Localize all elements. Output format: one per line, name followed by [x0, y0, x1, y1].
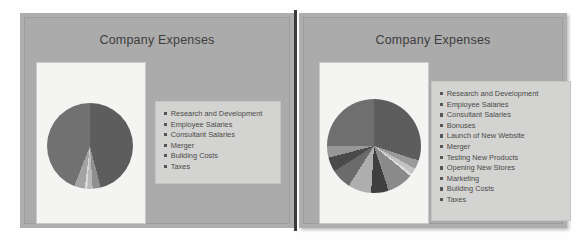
- pie-chart-left: [47, 103, 133, 189]
- slide-panel-right[interactable]: Company Expenses Research and Developmen…: [299, 13, 567, 228]
- slide-inner-frame-right: Company Expenses Research and Developmen…: [303, 17, 563, 224]
- slide-inner-frame-left: Company Expenses Research and Developmen…: [24, 17, 290, 224]
- legend-item[interactable]: Launch of New Website: [440, 132, 564, 139]
- square-marker-icon: [164, 123, 167, 126]
- legend-item-label: Building Costs: [447, 185, 494, 192]
- square-marker-icon: [164, 112, 167, 115]
- legend-item[interactable]: Opening New Stores: [440, 164, 564, 171]
- legend-item[interactable]: Taxes: [440, 196, 564, 203]
- legend-item[interactable]: Research and Development: [164, 110, 274, 117]
- legend-item[interactable]: Marketing: [440, 175, 564, 182]
- legend-item[interactable]: Research and Development: [440, 90, 564, 97]
- legend-item-label: Employee Salaries: [447, 101, 509, 108]
- square-marker-icon: [440, 124, 443, 127]
- legend-item[interactable]: Consultant Salaries: [440, 111, 564, 118]
- screenshot-stage: Company Expenses Research and Developmen…: [0, 0, 586, 247]
- square-marker-icon: [440, 103, 443, 106]
- legend-item[interactable]: Consultant Salaries: [164, 131, 274, 138]
- legend-item-label: Opening New Stores: [447, 164, 515, 171]
- legend-item[interactable]: Bonuses: [440, 122, 564, 129]
- square-marker-icon: [440, 134, 443, 137]
- square-marker-icon: [440, 92, 443, 95]
- legend-item-label: Launch of New Website: [447, 132, 525, 139]
- square-marker-icon: [164, 133, 167, 136]
- slide-panel-left[interactable]: Company Expenses Research and Developmen…: [20, 13, 294, 228]
- chart-legend-left: Research and Development Employee Salari…: [155, 101, 281, 184]
- legend-item[interactable]: Taxes: [164, 163, 274, 170]
- legend-item[interactable]: Employee Salaries: [440, 101, 564, 108]
- legend-item-label: Testing New Products: [447, 154, 518, 161]
- legend-item[interactable]: Building Costs: [164, 152, 274, 159]
- legend-item-label: Marketing: [447, 175, 479, 182]
- square-marker-icon: [164, 165, 167, 168]
- square-marker-icon: [440, 145, 443, 148]
- square-marker-icon: [440, 166, 443, 169]
- square-marker-icon: [164, 144, 167, 147]
- pie-chart-plot-area-left[interactable]: [36, 62, 146, 224]
- slide-divider: [294, 10, 297, 231]
- square-marker-icon: [440, 187, 443, 190]
- square-marker-icon: [440, 156, 443, 159]
- legend-item-label: Taxes: [171, 163, 190, 170]
- page-title: Company Expenses: [304, 33, 562, 47]
- pie-chart-right: [327, 99, 421, 193]
- legend-item-label: Merger: [447, 143, 470, 150]
- page-title: Company Expenses: [25, 33, 289, 47]
- legend-item[interactable]: Building Costs: [440, 185, 564, 192]
- square-marker-icon: [164, 154, 167, 157]
- legend-item-label: Research and Development: [171, 110, 263, 117]
- square-marker-icon: [440, 177, 443, 180]
- legend-item-label: Merger: [171, 142, 194, 149]
- legend-item-label: Research and Development: [447, 90, 539, 97]
- legend-item-label: Employee Salaries: [171, 121, 233, 128]
- legend-item-label: Bonuses: [447, 122, 476, 129]
- square-marker-icon: [440, 113, 443, 116]
- legend-item[interactable]: Merger: [164, 142, 274, 149]
- legend-item-label: Consultant Salaries: [447, 111, 511, 118]
- chart-legend-right: Research and Development Employee Salari…: [431, 81, 571, 221]
- legend-item-label: Taxes: [447, 196, 466, 203]
- legend-item[interactable]: Merger: [440, 143, 564, 150]
- square-marker-icon: [440, 198, 443, 201]
- legend-item-label: Building Costs: [171, 152, 218, 159]
- legend-item-label: Consultant Salaries: [171, 131, 235, 138]
- pie-chart-plot-area-right[interactable]: [319, 62, 429, 224]
- legend-item[interactable]: Testing New Products: [440, 154, 564, 161]
- legend-item[interactable]: Employee Salaries: [164, 121, 274, 128]
